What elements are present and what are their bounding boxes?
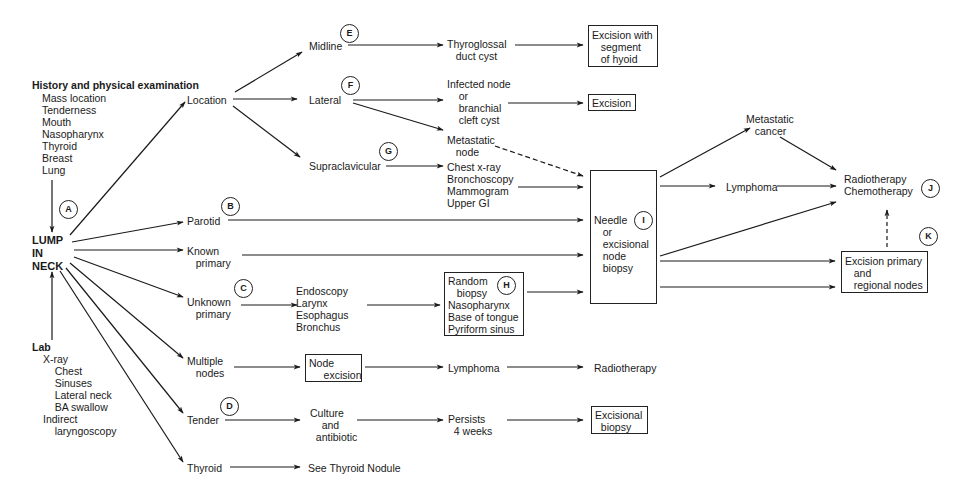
root-lump-in-neck: LUMP IN NECK (32, 234, 63, 273)
node-radio-chemo: Radiotherapy Chemotherapy (844, 173, 913, 197)
node-thyroglossal: Thyroglossal duct cyst (447, 38, 507, 62)
node-see-thyroid: See Thyroid Nodule (308, 462, 401, 474)
node-metastatic: Metastatic node (447, 134, 495, 158)
excision-hyoid-text: Excision with segment of hyoid (592, 29, 653, 65)
node-lymphoma-top: Lymphoma (726, 181, 778, 193)
marker-h: H (497, 276, 516, 295)
node-workup: Chest x-ray Bronchoscopy Mammogram Upper… (447, 161, 514, 209)
marker-f: F (341, 76, 360, 95)
box-excision-hyoid: Excision with segment of hyoid (588, 25, 658, 67)
excision-text: Excision (592, 97, 631, 109)
excision-primary-text: Excision primary and regional nodes (845, 255, 923, 291)
box-excision: Excision (588, 94, 636, 111)
branch-supraclavicular: Supraclavicular (309, 160, 381, 172)
node-endoscopy: Endoscopy Larynx Esophagus Bronchus (296, 285, 349, 333)
branch-midline: Midline (309, 40, 342, 52)
node-lymphoma-bottom: Lymphoma (448, 362, 500, 374)
excisional-biopsy-text: Excisional biopsy (595, 409, 642, 433)
marker-a: A (59, 200, 78, 219)
history-item: Mass location (42, 92, 106, 104)
marker-g: G (379, 142, 398, 161)
node-radiotherapy: Radiotherapy (594, 362, 656, 374)
box-node-excision: Node excision (305, 354, 362, 382)
history-item: Tenderness (42, 104, 96, 116)
branch-thyroid: Thyroid (187, 462, 222, 474)
branch-location: Location (187, 94, 227, 106)
history-item: Breast (42, 152, 72, 164)
history-item: Mouth (42, 116, 71, 128)
history-heading: History and physical examination (32, 79, 199, 91)
marker-c: C (234, 279, 253, 298)
box-needle-biopsy: Needle or excisional node biopsy (590, 170, 657, 304)
branch-tender: Tender (187, 414, 219, 426)
marker-d: D (220, 397, 239, 416)
branch-unknown-primary: Unknown primary (187, 296, 231, 320)
marker-i: I (634, 211, 653, 230)
lab-heading: Lab (32, 341, 51, 353)
history-item: Thyroid (42, 140, 77, 152)
marker-e: E (340, 24, 359, 43)
box-excision-primary: Excision primary and regional nodes (841, 251, 928, 293)
node-infected: Infected node or branchial cleft cyst (447, 78, 511, 126)
box-excisional-biopsy: Excisional biopsy (591, 406, 648, 434)
node-culture: Culture and antibiotic (310, 407, 357, 443)
node-metastatic-cancer: Metastatic cancer (746, 113, 794, 137)
history-item: Nasopharynx (42, 128, 104, 140)
node-excision-text: Node excision (309, 357, 362, 381)
branch-known-primary: Known primary (187, 245, 231, 269)
history-item: Lung (42, 164, 65, 176)
lab-items: X-ray Chest Sinuses Lateral neck BA swal… (43, 353, 117, 437)
marker-b: B (221, 197, 240, 216)
marker-k: K (919, 227, 938, 246)
branch-parotid: Parotid (187, 215, 220, 227)
branch-multiple-nodes: Multiple nodes (187, 355, 224, 379)
marker-j: J (921, 179, 940, 198)
branch-lateral: Lateral (309, 94, 341, 106)
node-persists: Persists 4 weeks (448, 413, 492, 437)
